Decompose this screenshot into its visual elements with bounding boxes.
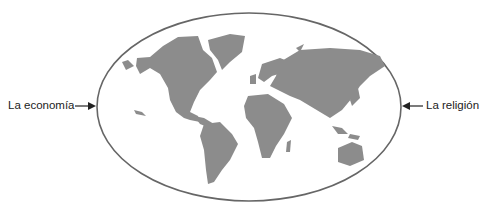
uk [250,74,256,84]
asia [270,48,385,118]
hawaii [134,110,146,116]
left-arrowhead-icon [88,102,96,110]
madagascar [286,140,291,152]
alaska-islands [122,60,134,70]
south-america [200,122,238,184]
australia [338,142,364,166]
economy-label: La economía [8,99,75,111]
right-arrowhead-icon [402,102,410,110]
north-america [136,36,217,122]
indonesia [332,126,360,140]
continents [122,34,385,184]
africa [244,94,292,158]
religion-label: La religión [426,99,479,111]
